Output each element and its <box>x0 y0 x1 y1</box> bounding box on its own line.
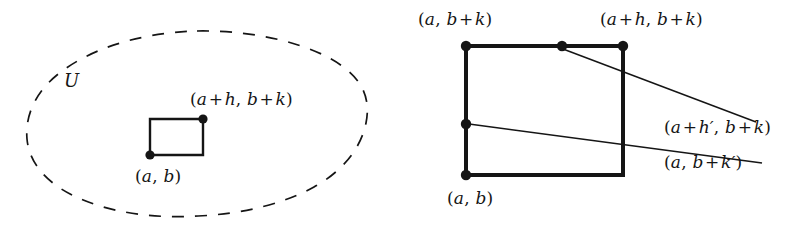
left-label-top-right: (a+h, b+k) <box>190 91 293 108</box>
right-point-top-right <box>618 41 628 51</box>
comma: , <box>236 89 242 109</box>
left-panel-group <box>27 31 368 217</box>
left-point-ahbk <box>198 114 207 123</box>
var-a: a <box>197 89 207 109</box>
math-figure: U (a+h, b+k) (a, b) (a, b+k) (a+h, b+k) … <box>0 0 802 227</box>
paren-open: ( <box>447 188 454 208</box>
operator-plus: + <box>458 9 475 29</box>
right-point-bottom-left <box>461 170 471 180</box>
paren-open: ( <box>135 166 142 186</box>
var-a: a <box>607 9 617 29</box>
right-label-leader-upper: (a+h′, b+k) <box>664 119 771 136</box>
left-label-bottom-left: (a, b) <box>135 168 181 185</box>
var-b: b <box>725 117 736 137</box>
operator-plus: + <box>704 152 721 172</box>
var-a: a <box>142 166 152 186</box>
right-label-bottom-left: (a, b) <box>447 190 493 207</box>
right-square <box>466 46 623 175</box>
operator-plus: + <box>258 89 275 109</box>
left-point-ab <box>145 150 154 159</box>
var-b: b <box>247 89 258 109</box>
region-u-text: U <box>64 70 79 91</box>
operator-plus: + <box>736 117 753 137</box>
var-k: k <box>721 152 732 172</box>
figure-canvas <box>0 0 802 227</box>
comma: , <box>152 166 158 186</box>
var-b: b <box>692 152 703 172</box>
comma: , <box>435 9 441 29</box>
paren-close: ) <box>175 166 182 186</box>
var-b: b <box>657 9 668 29</box>
right-point-top-middle <box>557 41 567 51</box>
paren-close: ) <box>764 117 771 137</box>
right-label-top-right: (a+h, b+k) <box>600 11 703 28</box>
paren-open: ( <box>664 117 671 137</box>
var-k: k <box>475 9 486 29</box>
paren-open: ( <box>190 89 197 109</box>
right-point-left-middle <box>461 119 471 129</box>
right-label-leader-lower: (a, b+k′) <box>664 154 742 171</box>
var-a: a <box>425 9 435 29</box>
paren-close: ) <box>487 188 494 208</box>
paren-close: ) <box>696 9 703 29</box>
paren-close: ) <box>286 89 293 109</box>
paren-close: ) <box>485 9 492 29</box>
comma: , <box>714 117 720 137</box>
operator-plus: + <box>668 9 685 29</box>
leader-line-upper <box>563 49 756 122</box>
var-a: a <box>454 188 464 208</box>
right-point-top-left <box>461 41 471 51</box>
left-rectangle-group <box>145 114 207 159</box>
operator-plus: + <box>617 9 634 29</box>
open-region-u-boundary <box>27 31 368 217</box>
var-h: h <box>635 9 646 29</box>
paren-open: ( <box>600 9 607 29</box>
paren-open: ( <box>418 9 425 29</box>
left-rectangle <box>150 119 203 155</box>
var-k: k <box>686 9 697 29</box>
paren-close: ) <box>736 152 743 172</box>
comma: , <box>646 9 652 29</box>
var-b: b <box>446 9 457 29</box>
var-b: b <box>163 166 174 186</box>
comma: , <box>464 188 470 208</box>
var-a: a <box>671 117 681 137</box>
var-a: a <box>671 152 681 172</box>
region-label-u: U <box>64 72 79 90</box>
var-h: h <box>225 89 236 109</box>
operator-plus: + <box>207 89 224 109</box>
var-k: k <box>276 89 287 109</box>
var-b: b <box>475 188 486 208</box>
var-k: k <box>754 117 765 137</box>
comma: , <box>681 152 687 172</box>
var-h: h <box>699 117 710 137</box>
paren-open: ( <box>664 152 671 172</box>
operator-plus: + <box>681 117 698 137</box>
right-label-top-left: (a, b+k) <box>418 11 492 28</box>
